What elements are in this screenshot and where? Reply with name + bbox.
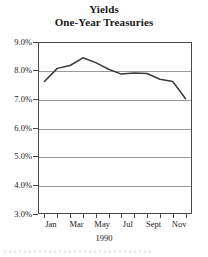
x-tick-label: Sept [146,219,161,229]
y-tick-mark [33,214,38,215]
y-tick-label: 4.0% [0,180,32,190]
data-series-line [38,42,192,214]
x-tick-mark [134,214,135,218]
x-axis-title: 1990 [0,233,208,243]
x-tick-mark [186,214,187,218]
chart-container: Yields One-Year Treasuries 9.0%8.0%7.0%6… [0,0,208,257]
x-tick-mark [96,214,97,218]
x-tick-label: Nov [172,219,187,229]
x-tick-mark [44,214,45,218]
y-tick-label: 5.0% [0,151,32,161]
y-tick-label: 3.0% [0,209,32,219]
y-tick-label: 6.0% [0,123,32,133]
x-tick-mark [109,214,110,218]
x-tick-label: Jul [123,219,133,229]
chart-subtitle: One-Year Treasuries [0,16,208,29]
x-tick-label: May [94,219,110,229]
x-tick-label: Jan [45,219,56,229]
x-tick-mark [83,214,84,218]
y-tick-label: 7.0% [0,94,32,104]
scan-artifact [4,250,154,253]
x-tick-mark [57,214,58,218]
y-tick-mark [33,156,38,157]
x-tick-mark [70,214,71,218]
chart-title-block: Yields One-Year Treasuries [0,3,208,28]
x-tick-mark [173,214,174,218]
x-tick-mark [121,214,122,218]
x-tick-mark [147,214,148,218]
y-tick-mark [33,185,38,186]
y-tick-mark [33,42,38,43]
y-tick-label: 9.0% [0,37,32,47]
y-tick-label: 8.0% [0,65,32,75]
y-tick-mark [33,99,38,100]
y-tick-mark [33,70,38,71]
x-tick-label: Mar [69,219,83,229]
chart-title: Yields [0,3,208,16]
y-tick-mark [33,128,38,129]
x-tick-mark [160,214,161,218]
